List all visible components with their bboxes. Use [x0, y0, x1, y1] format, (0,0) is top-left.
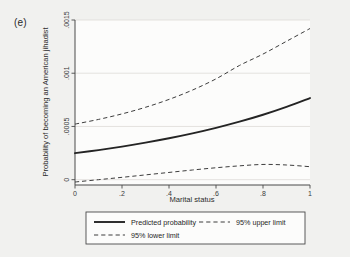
x-tick-label-5: 1 [308, 190, 312, 197]
chart-svg: 0.0005.001.0015 0.2.4.6.81 Probability o… [0, 0, 350, 257]
y-tick-label-3: .0015 [63, 11, 70, 29]
plot-area-background [75, 20, 310, 185]
y-tick-label-0: 0 [63, 178, 70, 182]
x-tick-label-4: .8 [260, 190, 266, 197]
chart-legend: Predicted probability95% upper limit95% … [86, 212, 305, 244]
legend-label-0: Predicted probability [131, 218, 197, 227]
y-axis-title: Probability of becoming an American jiha… [41, 27, 50, 177]
y-axis-ticks: 0.0005.001.0015 [63, 11, 75, 181]
legend-label-2: 95% lower limit [131, 231, 179, 240]
x-tick-label-0: 0 [73, 190, 77, 197]
x-tick-label-1: .2 [119, 190, 125, 197]
figure-panel: (e) 0.0005.001.0015 0.2.4.6.81 Probabili… [0, 0, 350, 257]
y-tick-label-1: .0005 [63, 118, 70, 136]
y-axis: 0.0005.001.0015 [63, 11, 75, 185]
legend-label-1: 95% upper limit [236, 218, 286, 227]
x-axis-title: Marital status [169, 195, 214, 204]
chart-canvas: 0.0005.001.0015 0.2.4.6.81 Probability o… [0, 0, 350, 257]
y-tick-label-2: .001 [63, 66, 70, 80]
